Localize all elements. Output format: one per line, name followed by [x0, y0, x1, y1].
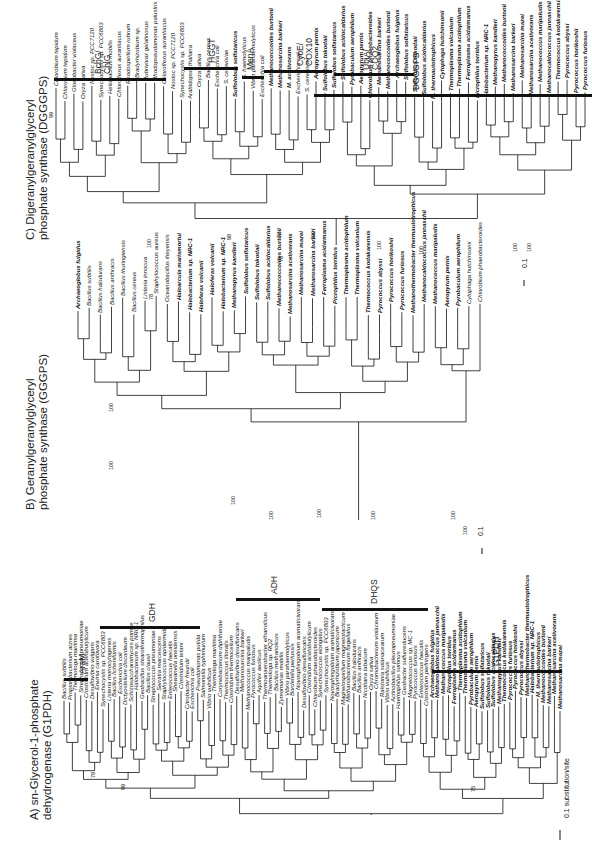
- leaf-label-b: Aeropyrum pernix: [444, 255, 450, 307]
- leaf-label-b: Sulfolobus solfataricus: [243, 228, 249, 294]
- leaf-label-c: Methanosarcina barkeri: [510, 24, 516, 91]
- bootstrap-value: 100: [108, 461, 114, 470]
- leaf-label-c: Ferroplasma acidarmanus: [465, 6, 471, 81]
- leaf-label-b: Oceanobacillus iheyensis: [164, 234, 170, 302]
- leaf-label-b: Methanopyrus kandleri: [231, 243, 237, 309]
- leaf-label-c: Nostoc sp. PCC7120: [170, 33, 176, 89]
- leaf-label-c: Sulfolobus tokodaii: [412, 36, 418, 92]
- leaf-label-c: Methanosarcina mazei: [519, 14, 525, 78]
- leaf-label-b: Bacillus cereus: [131, 272, 137, 312]
- leaf-label-c: Oryza sativa: [80, 66, 86, 99]
- leaf-label-c: Bradyrhizobium sp.: [134, 27, 140, 78]
- bootstrap-value: 100: [146, 239, 152, 248]
- bootstrap-value: 100: [450, 511, 456, 520]
- leaf-label-b: Listeria innocua: [142, 257, 148, 299]
- leaf-label-c: Archaeoglobus fulgidus: [394, 9, 400, 78]
- leaf-label-b: Thermococcus kodakarensis: [365, 230, 371, 313]
- bootstrap-value: 100: [418, 246, 424, 255]
- leaf-label-b: Methanosarcina mazei: [298, 231, 304, 295]
- leaf-label-c: Methanococcoides burtonii: [501, 4, 507, 82]
- leaf-label-c: Methanococcus maripaludis: [537, 1, 543, 82]
- leaf-label-c: Thermoplasma volcanium: [448, 17, 454, 91]
- leaf-label-b: Staphylococcus aureus: [153, 232, 159, 294]
- leaf-label-c: Sulfolobus tokodaii: [322, 35, 328, 91]
- bootstrap-value: 100: [376, 241, 382, 250]
- leaf-label-b: Methanosarcina acetivorans: [287, 234, 293, 315]
- leaf-label-c: Vibrio parahaemolyticus: [250, 25, 256, 89]
- bootstrap-value: 99: [48, 112, 54, 118]
- leaf-label-b: Haloarcula marismortui: [176, 233, 182, 300]
- leaf-label-c: S. cerevisiae: [223, 50, 229, 84]
- leaf-label-c: Picrophilus torridus: [474, 41, 480, 98]
- leaf-label-c: Heliobacillus mobilis: [107, 40, 113, 94]
- leaf-label-c: Methanococcoides burtonii: [385, 11, 391, 89]
- leaf-label-b: Bacillus halodurans: [97, 261, 103, 313]
- leaf-label-b: Sulfolobus acidocaldarius: [265, 225, 271, 300]
- bootstrap-value: 100: [316, 509, 322, 518]
- bootstrap-value: 78: [278, 256, 284, 262]
- leaf-label-b: Halobacterium sp. NRC-1: [220, 237, 226, 309]
- leaf-label-c: Pyrococcus abyssi: [564, 24, 570, 78]
- leaf-label-c: Sulfolobus solfataricus: [331, 21, 337, 87]
- bootstrap-value: 72: [276, 232, 282, 238]
- leaf-label-c: Rubrivivax gelatinosus: [143, 21, 149, 81]
- bootstrap-value: 99: [120, 784, 126, 790]
- leaf-label-c: S. cerevisiae: [304, 58, 310, 92]
- leaf-label-c: Sulfolobus acidocaldarius: [421, 20, 427, 95]
- leaf-label-c: Gloeobacter violaceus: [71, 32, 77, 91]
- leaf-label-c: Synechocystis sp. PCC6803: [98, 22, 104, 98]
- leaf-label-b: Pyrococcus horikoshii: [388, 237, 394, 301]
- leaf-label-b: Thermoplasma acidophilum: [343, 216, 349, 296]
- leaf-label-a: Methanosarcina mazei: [557, 645, 563, 709]
- bootstrap-value: 100: [310, 231, 316, 240]
- leaf-label-c: S. haemolyticus: [241, 37, 247, 79]
- leaf-label-c: Escherichia coli: [214, 45, 220, 87]
- leaf-label-c: Methanosarcina barkeri: [277, 21, 283, 88]
- leaf-label-b: Haloferax volcanii: [209, 244, 215, 295]
- bootstrap-value: 100: [268, 511, 274, 520]
- leaf-label-b: Chlorobium phaeobacteroides: [477, 222, 483, 302]
- bootstrap-value: 100: [370, 511, 376, 520]
- leaf-label-b: Bacillus anthracis: [109, 258, 115, 305]
- bootstrap-value: 78: [90, 772, 96, 778]
- leaf-label-c: Bacillus cereus: [205, 38, 211, 78]
- leaf-label-c: Rhodospirillum rubrum: [125, 23, 131, 83]
- leaf-label-c: Nostoc sp. PCC7120: [89, 28, 95, 84]
- leaf-label-c: Pyrococcus horikoshii: [573, 29, 579, 93]
- bootstrap-value: 78: [148, 294, 154, 300]
- leaf-label-b: Haloferax volcanii: [198, 261, 204, 312]
- leaf-label-c: Cytophaga hutchinsonii: [439, 10, 445, 78]
- leaf-label-c: Pyrococcus furiosus: [582, 31, 588, 90]
- leaf-label-c: Thermoplasma acidophilum: [456, 7, 462, 87]
- leaf-label-b: Cytophaga hutchinsonii: [466, 242, 472, 304]
- leaf-label-c: Synechocystis sp. PCC6803: [179, 22, 185, 98]
- leaf-label-c: Chloroflexus aurantiacus: [116, 31, 122, 97]
- leaf-label-b: Methanococcoides burtonii: [276, 228, 282, 306]
- leaf-label-c: Aeropyrum pernix: [313, 28, 319, 80]
- leaf-label-b: Sulfolobus tokodaii: [254, 245, 260, 301]
- leaf-label-c: Aeropyrum pernix: [358, 32, 364, 84]
- leaf-label-b: Methanothermobacter thermautotrophicus: [410, 192, 416, 313]
- leaf-label-c: Oryza sativa: [196, 54, 202, 87]
- leaf-label-c: Pyrobaculum aerophilum: [349, 13, 355, 85]
- bootstrap-value: 100: [108, 403, 114, 412]
- leaf-label-c: Halobacterium sp. NRC-1: [483, 24, 489, 96]
- leaf-label-b: Ferroplasma acidarmanus: [321, 220, 327, 295]
- leaf-label-c: Escherichia coli: [259, 55, 265, 97]
- leaf-label-b: Pyrococcus abyssi: [377, 258, 383, 312]
- leaf-label-b: Halobacterium sp. NRC-1: [187, 238, 193, 310]
- leaf-label-c: Methanosarcina acetivorans: [528, 14, 534, 95]
- leaf-label-c: Methanocaldococcus jannaschii: [546, 1, 552, 93]
- leaf-label-b: Bacillus thuringiensis: [120, 240, 126, 296]
- bootstrap-value: 100: [526, 243, 532, 252]
- leaf-label-c: Thermococcus kodakarensis: [555, 0, 561, 80]
- leaf-label-c: Chlorobium tepidum: [53, 32, 59, 86]
- leaf-label-b: Archaeoglobus fulgidus: [75, 240, 81, 309]
- bootstrap-value: 100: [462, 526, 468, 535]
- leaf-label-b: Thermoplasma volcanium: [354, 221, 360, 295]
- leaf-label-c: Sulfolobus solfataricus: [403, 13, 409, 79]
- leaf-label-c: M. acetivorans: [286, 47, 292, 89]
- leaf-label-c: Chloroflexus aurantiacus: [161, 18, 167, 84]
- bootstrap-value: 98: [226, 234, 232, 240]
- leaf-label-c: Escherichia coli: [295, 53, 301, 95]
